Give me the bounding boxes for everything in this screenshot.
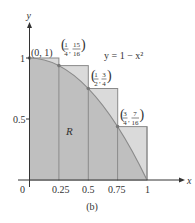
- svg-text:4: 4: [123, 119, 127, 127]
- svg-text:): ): [107, 68, 112, 84]
- svg-text:2: 2: [94, 80, 98, 88]
- svg-text:1: 1: [94, 71, 98, 79]
- svg-text:,: ,: [69, 47, 71, 55]
- svg-text:3: 3: [102, 71, 106, 79]
- x-tick-075: 0.75: [108, 184, 126, 195]
- point-label-half: ( 1 2 , 3 4 ): [91, 68, 112, 88]
- equation-label: y = 1 − x²: [104, 50, 143, 61]
- y-tick-05: 0.5: [13, 114, 26, 125]
- svg-text:4: 4: [64, 50, 68, 58]
- x-tick-1: 1: [145, 184, 150, 195]
- y-tick-1: 1: [20, 53, 25, 64]
- svg-text:): ): [140, 107, 145, 123]
- svg-text:16: 16: [73, 50, 81, 58]
- svg-text:1: 1: [64, 41, 68, 49]
- svg-text:): ): [81, 37, 86, 53]
- region-r-label: R: [65, 125, 73, 137]
- svg-text:7: 7: [133, 110, 137, 118]
- upper-sum-diagram: x y 0 0.25 0.5 0.75 1 0.5 1 y = 1 − x² R…: [0, 0, 195, 223]
- x-tick-05: 0.5: [82, 184, 95, 195]
- x-tick-0: 0: [20, 184, 25, 195]
- x-axis-arrow-icon: [179, 178, 185, 183]
- svg-text:,: ,: [99, 77, 101, 85]
- x-tick-025: 0.25: [52, 184, 70, 195]
- figure-caption: (b): [86, 201, 98, 213]
- svg-text:15: 15: [73, 41, 81, 49]
- point-label-0-1: (0, 1): [31, 47, 53, 59]
- svg-text:,: ,: [128, 116, 130, 124]
- y-axis-label: y: [26, 10, 32, 21]
- point-label-quarter: ( 1 4 , 15 16 ): [61, 37, 86, 58]
- svg-text:3: 3: [123, 110, 127, 118]
- svg-text:4: 4: [102, 80, 106, 88]
- svg-text:16: 16: [132, 119, 140, 127]
- point-label-three-quarter: ( 3 4 , 7 16 ): [120, 107, 145, 127]
- y-axis-arrow-icon: [27, 22, 32, 28]
- x-axis-label: x: [186, 175, 192, 186]
